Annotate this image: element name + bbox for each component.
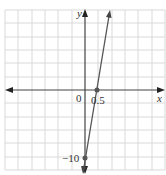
x-intercept-label: 0.5	[91, 94, 105, 106]
x-axis-label: x	[156, 92, 162, 104]
y-intercept-label: −10	[62, 152, 80, 164]
x-axis-left-arrow-icon	[5, 87, 13, 93]
line-top-arrow-icon	[106, 10, 112, 18]
y-axis-label: y	[76, 7, 82, 19]
origin-label: 0	[76, 92, 82, 104]
y-intercept-point	[83, 156, 88, 161]
x-intercept-point	[95, 88, 100, 93]
coordinate-plane: y x 0 0.5 −10	[0, 0, 166, 175]
